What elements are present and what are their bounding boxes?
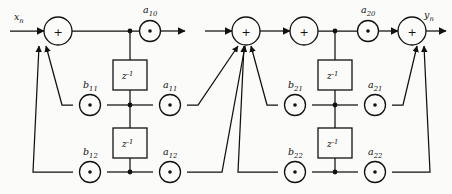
label-a10: a10 <box>143 4 158 18</box>
multiplier-a20-dot <box>366 29 370 33</box>
label-a21: a21 <box>368 79 382 93</box>
junction-dot-1-bot <box>128 170 133 175</box>
label-a12: a12 <box>163 146 177 160</box>
junction-dot-2-mid <box>333 103 338 108</box>
multiplier-b12-dot <box>88 170 92 174</box>
input-adder-1-symbol: + <box>53 26 62 39</box>
b12-feedback-wire <box>33 46 73 172</box>
label-input-signal: xn <box>14 11 24 25</box>
multiplier-a22-dot <box>373 170 377 174</box>
multiplier-b21-dot <box>293 103 297 107</box>
a22-feedforward-wire <box>392 46 430 172</box>
output-adder-1-symbol: + <box>241 26 250 39</box>
signal-flow-diagram-canvas: z-1 z-1 + + a10 <box>0 0 452 194</box>
multiplier-a11-dot <box>168 103 172 107</box>
junction-dot-2-top <box>333 29 338 34</box>
b22-feedback-wire <box>238 46 278 172</box>
label-a20: a20 <box>361 4 376 18</box>
input-adder-2-symbol: + <box>299 26 308 39</box>
a11-feedforward-wire <box>187 46 238 105</box>
label-b11: b11 <box>83 79 98 93</box>
label-b22: b22 <box>288 146 303 160</box>
label-a22: a22 <box>368 146 382 160</box>
label-b12: b12 <box>83 146 98 160</box>
label-b21: b21 <box>288 79 303 93</box>
label-output-signal: yn <box>423 9 434 23</box>
label-a11: a11 <box>163 79 177 93</box>
b21-feedback-wire <box>251 46 278 105</box>
junction-dot-1-top <box>128 29 133 34</box>
output-adder-2-symbol: + <box>407 26 416 39</box>
a12-feedforward-wire <box>187 46 245 172</box>
junction-dot-2-bot <box>333 170 338 175</box>
multiplier-a21-dot <box>373 103 377 107</box>
multiplier-b22-dot <box>293 170 297 174</box>
b11-feedback-wire <box>46 46 73 105</box>
junction-dot-1-mid <box>128 103 133 108</box>
iir-cascade-signal-flow-graph: z-1 z-1 + + a10 <box>0 0 452 194</box>
multiplier-a12-dot <box>168 170 172 174</box>
multiplier-b11-dot <box>88 103 92 107</box>
multiplier-a10-dot <box>148 29 152 33</box>
a21-feedforward-wire <box>392 46 417 105</box>
